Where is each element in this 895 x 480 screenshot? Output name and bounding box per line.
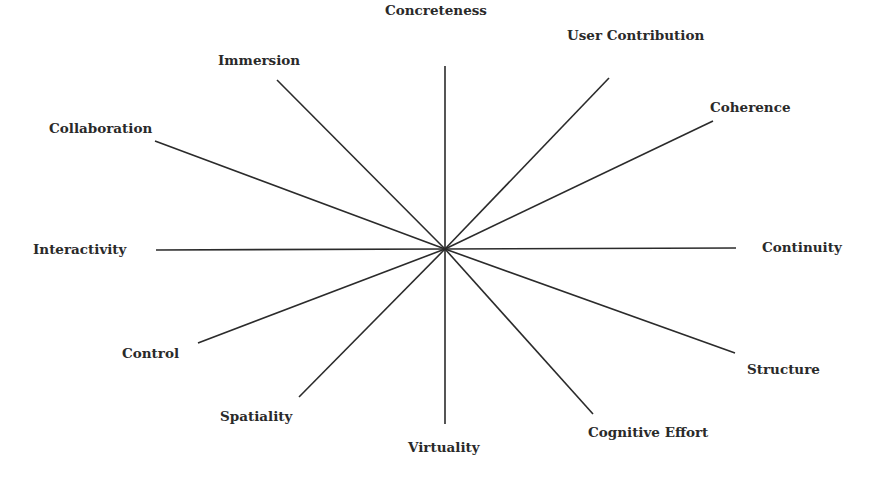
label-structure: Structure (747, 363, 820, 377)
spokes-group (155, 66, 736, 424)
spoke-interactivity (156, 249, 445, 250)
spoke-continuity (445, 248, 736, 249)
label-cognitive-effort: Cognitive Effort (588, 426, 708, 440)
label-coherence: Coherence (710, 101, 790, 115)
label-control: Control (122, 347, 179, 361)
label-immersion: Immersion (218, 54, 300, 68)
label-spatiality: Spatiality (220, 410, 292, 424)
label-interactivity: Interactivity (33, 243, 126, 257)
spoke-immersion (277, 80, 445, 249)
spoke-structure (445, 249, 735, 353)
label-collaboration: Collaboration (49, 122, 152, 136)
spoke-coherence (445, 121, 713, 249)
spoke-collaboration (155, 141, 445, 249)
label-continuity: Continuity (762, 241, 842, 255)
radial-diagram (0, 0, 895, 480)
spoke-user-contribution (445, 78, 609, 249)
spoke-spatiality (299, 249, 445, 397)
label-virtuality: Virtuality (408, 441, 480, 455)
label-concreteness: Concreteness (385, 4, 487, 18)
label-user-contribution: User Contribution (567, 29, 704, 43)
spoke-control (198, 249, 445, 343)
spoke-cognitive-effort (445, 249, 593, 414)
